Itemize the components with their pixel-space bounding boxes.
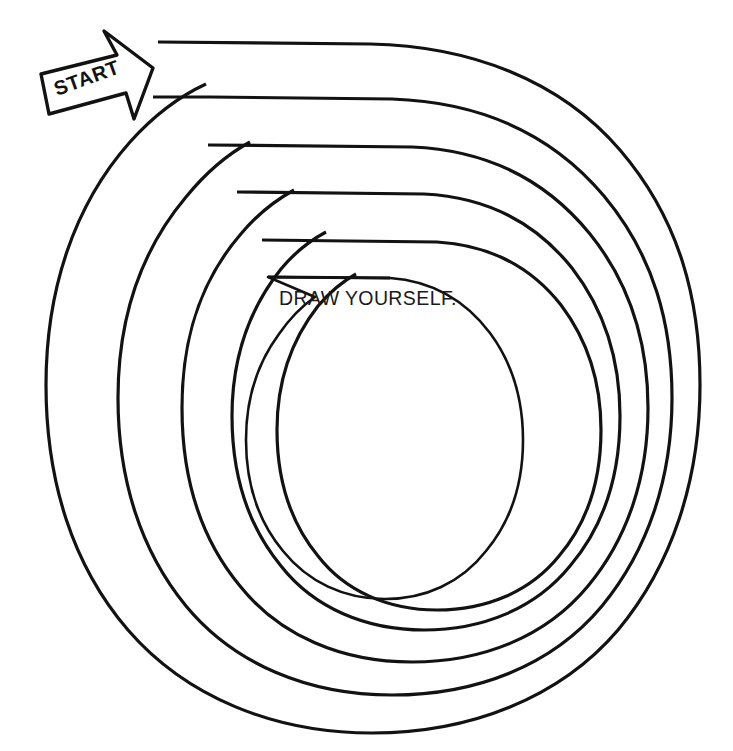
center-prompt-text: DRAW YOURSELF.	[279, 289, 457, 309]
spiral-drawing: START	[0, 0, 733, 751]
spiral-arm-4	[232, 192, 620, 630]
activity-sheet-canvas: START DRAW YOURSELF.	[0, 0, 733, 751]
spiral-inner-circle	[246, 277, 523, 599]
spiral-arm-3	[182, 145, 648, 662]
spiral-artboard: START	[0, 0, 733, 751]
